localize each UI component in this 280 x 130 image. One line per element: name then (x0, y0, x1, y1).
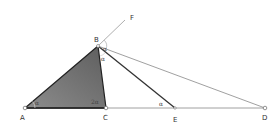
angle-label-E: α (159, 100, 163, 107)
label-F: F (130, 14, 134, 22)
label-E: E (173, 116, 177, 124)
label-A: A (20, 114, 25, 122)
segment-BE (98, 46, 175, 108)
angle-label-B-inner: α (101, 55, 105, 62)
angle-label-A: α (35, 99, 39, 106)
point-B (97, 45, 100, 48)
point-C (104, 106, 108, 110)
geometry-diagram: A B C E D F α 2α α α α (0, 0, 280, 130)
point-A (23, 106, 27, 110)
label-D: D (262, 114, 267, 122)
label-B: B (94, 36, 99, 44)
point-D (263, 106, 267, 110)
segment-BD (98, 46, 265, 108)
angle-label-C: 2α (91, 98, 99, 105)
label-C: C (103, 114, 108, 122)
angle-label-B-outer: α (103, 45, 107, 52)
line-BF (98, 20, 125, 46)
point-E (174, 107, 176, 109)
